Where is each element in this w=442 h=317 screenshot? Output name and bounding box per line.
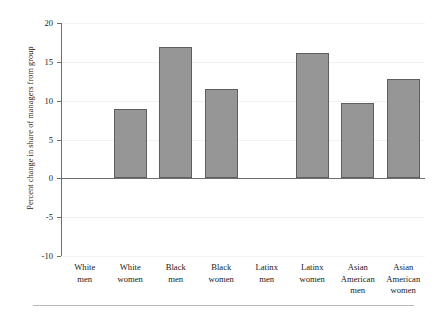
bar[interactable] xyxy=(114,109,147,178)
bar[interactable] xyxy=(296,53,329,178)
x-axis-label-line: Asian xyxy=(376,262,432,274)
y-axis-tick xyxy=(57,217,61,218)
x-axis-tick-labels: WhitemenWhitewomenBlackmenBlackwomenLati… xyxy=(62,262,425,308)
bar-slot xyxy=(341,23,374,256)
footer-rule xyxy=(33,305,414,306)
bar[interactable] xyxy=(205,89,238,178)
y-axis-tick-label: 5 xyxy=(23,136,53,145)
y-axis-tick-label: 20 xyxy=(23,19,53,28)
x-axis-tick-label: AsianAmericanwomen xyxy=(376,262,432,297)
y-axis-tick-label: 0 xyxy=(23,174,53,183)
bar[interactable] xyxy=(159,47,192,178)
x-axis-label-line: women xyxy=(376,285,432,297)
y-axis-tick xyxy=(57,23,61,24)
plot-area xyxy=(61,23,425,256)
bar[interactable] xyxy=(387,79,420,178)
bar-slot xyxy=(387,23,420,256)
y-axis-tick xyxy=(57,62,61,63)
y-axis-tick-label: 15 xyxy=(23,58,53,67)
bar-slot xyxy=(296,23,329,256)
bar-slot xyxy=(205,23,238,256)
bar[interactable] xyxy=(341,103,374,178)
x-axis-label-line: American xyxy=(376,274,432,286)
y-axis-tick xyxy=(57,256,61,257)
gridline xyxy=(62,256,425,257)
bar-slot xyxy=(114,23,147,256)
y-axis-tick-label: -10 xyxy=(23,252,53,261)
y-axis-tick xyxy=(57,101,61,102)
bar-slot xyxy=(250,23,283,256)
bar-slot xyxy=(159,23,192,256)
bar-slot xyxy=(68,23,101,256)
bar-series xyxy=(62,23,425,256)
bar-chart-figure: Percent change in share of managers from… xyxy=(0,0,442,317)
y-axis-tick-label: 10 xyxy=(23,97,53,106)
y-axis-tick xyxy=(57,140,61,141)
y-axis-tick-label: -5 xyxy=(23,213,53,222)
